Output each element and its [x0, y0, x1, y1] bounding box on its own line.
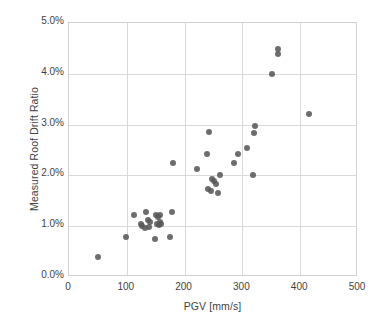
gridline-vertical — [185, 23, 186, 275]
data-point — [275, 46, 281, 52]
y-tick-label: 2.0% — [18, 167, 64, 178]
data-point — [217, 172, 223, 178]
data-point — [147, 219, 153, 225]
y-tick-label: 0.0% — [18, 269, 64, 280]
data-point — [170, 160, 176, 166]
scatter-chart: Measured Roof Drift Ratio 0.0%1.0%2.0%3.… — [0, 0, 372, 325]
data-point — [194, 166, 200, 172]
x-axis-title: PGV [mm/s] — [68, 300, 357, 312]
x-tick-label: 300 — [221, 281, 261, 292]
x-tick-label: 500 — [337, 281, 372, 292]
data-point — [208, 188, 214, 194]
data-point — [167, 234, 173, 240]
data-point — [143, 209, 149, 215]
y-tick-label: 3.0% — [18, 117, 64, 128]
data-point — [275, 51, 281, 57]
gridline-horizontal — [69, 125, 356, 126]
data-point — [213, 181, 219, 187]
data-point — [157, 212, 163, 218]
data-point — [231, 160, 237, 166]
data-point — [206, 129, 212, 135]
data-point — [269, 71, 275, 77]
data-point — [252, 123, 258, 129]
plot-area — [68, 22, 357, 276]
y-tick-label: 4.0% — [18, 66, 64, 77]
data-point — [131, 212, 137, 218]
data-point — [152, 236, 158, 242]
x-tick-label: 200 — [164, 281, 204, 292]
data-point — [204, 151, 210, 157]
data-point — [244, 145, 250, 151]
y-tick-label: 5.0% — [18, 15, 64, 26]
data-point — [250, 172, 256, 178]
x-tick-label: 400 — [279, 281, 319, 292]
x-axis-tick-labels: 0100200300400500 — [68, 281, 357, 297]
gridline-vertical — [300, 23, 301, 275]
gridline-horizontal — [69, 74, 356, 75]
data-point — [235, 151, 241, 157]
gridline-horizontal — [69, 226, 356, 227]
data-point — [169, 209, 175, 215]
x-tick-label: 0 — [48, 281, 88, 292]
y-axis-tick-labels: 0.0%1.0%2.0%3.0%4.0%5.0% — [12, 22, 64, 276]
x-tick-label: 100 — [106, 281, 146, 292]
data-point — [95, 254, 101, 260]
data-point — [306, 111, 312, 117]
data-point — [251, 130, 257, 136]
y-tick-label: 1.0% — [18, 218, 64, 229]
data-point — [215, 190, 221, 196]
